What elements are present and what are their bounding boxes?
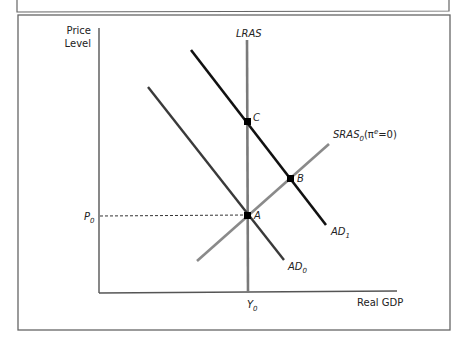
ad0-label: AD0	[287, 261, 308, 275]
p0-dashed-line	[100, 215, 247, 216]
p0-label: P0	[84, 211, 95, 225]
ad0-curve	[148, 87, 284, 260]
point-c-marker	[244, 118, 251, 125]
x-axis-label: Real GDP	[357, 297, 403, 308]
y-axis-label-line2: Level	[65, 38, 91, 49]
ad-as-diagram: Price Level Real GDP LRAS SRAS0(πe=0) AD…	[0, 0, 468, 348]
point-a-label: A	[253, 210, 261, 221]
main-frame	[18, 15, 450, 330]
point-a-marker	[244, 212, 251, 219]
y-axis-label-line1: Price	[67, 25, 91, 36]
lras-label: LRAS	[236, 28, 262, 39]
top-frame	[17, 0, 449, 12]
ad1-label: AD1	[330, 226, 350, 240]
ad1-curve	[191, 50, 326, 225]
lras-curve	[247, 40, 248, 293]
point-b-label: B	[297, 173, 304, 184]
point-c-label: C	[253, 112, 260, 123]
point-b-marker	[287, 175, 294, 182]
y0-label: Y0	[247, 299, 258, 313]
sras0-label: SRAS0(πe=0)	[333, 128, 397, 143]
